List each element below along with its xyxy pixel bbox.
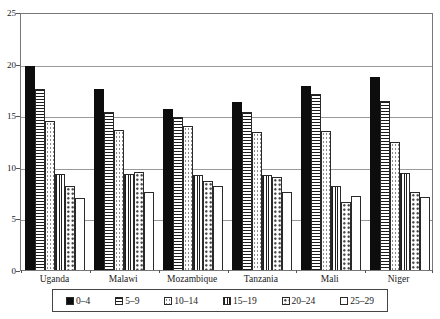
legend-label: 15–19 xyxy=(233,296,257,306)
bar-tanzania-10–14 xyxy=(252,132,262,270)
legend-item-0–4: 0–4 xyxy=(66,296,90,306)
legend-swatch-h-lines xyxy=(115,297,123,305)
bar-niger-0–4 xyxy=(370,77,380,270)
bar-mozambique-15–19 xyxy=(193,175,203,270)
y-tick-label: 20 xyxy=(0,60,16,70)
bar-niger-10–14 xyxy=(390,142,400,270)
bar-niger-15–19 xyxy=(400,173,410,270)
legend-swatch-dots-light xyxy=(164,297,172,305)
bar-uganda-25–29 xyxy=(75,198,85,270)
y-tick-mark xyxy=(16,116,20,117)
bar-mozambique-20–24 xyxy=(203,181,213,270)
y-tick-label: 15 xyxy=(0,111,16,121)
bar-niger-25–29 xyxy=(420,197,430,270)
x-tick-mark xyxy=(159,270,160,273)
bar-uganda-10–14 xyxy=(45,121,55,270)
x-tick-mark xyxy=(296,270,297,273)
plot-area xyxy=(20,13,433,271)
legend-label: 0–4 xyxy=(76,296,90,306)
bar-tanzania-15–19 xyxy=(262,175,272,270)
x-category-label-uganda: Uganda xyxy=(20,274,89,285)
y-tick-mark xyxy=(16,168,20,169)
y-tick-label: 5 xyxy=(0,214,16,224)
x-category-label-mozambique: Mozambique xyxy=(158,274,227,285)
bar-mali-0–4 xyxy=(301,86,311,270)
y-tick-label: 25 xyxy=(0,8,16,18)
x-category-label-mali: Mali xyxy=(295,274,364,285)
bar-group-niger xyxy=(365,14,434,270)
y-tick-mark xyxy=(16,271,20,272)
legend-label: 10–14 xyxy=(174,296,198,306)
bar-mozambique-0–4 xyxy=(163,109,173,270)
x-tick-mark xyxy=(365,270,366,273)
legend-label: 25–29 xyxy=(350,296,374,306)
bar-mozambique-10–14 xyxy=(183,126,193,270)
bar-group-mozambique xyxy=(159,14,228,270)
bar-niger-20–24 xyxy=(410,192,420,270)
bar-uganda-15–19 xyxy=(55,174,65,270)
x-tick-mark xyxy=(228,270,229,273)
y-tick-label: 0 xyxy=(0,266,16,276)
bar-tanzania-20–24 xyxy=(272,177,282,270)
bar-mozambique-25–29 xyxy=(213,186,223,270)
y-tick-mark xyxy=(16,65,20,66)
bar-mali-20–24 xyxy=(341,202,351,270)
bar-mali-25–29 xyxy=(351,196,361,270)
legend-item-5–9: 5–9 xyxy=(115,296,139,306)
bar-malawi-15–19 xyxy=(124,174,134,270)
bar-niger-5–9 xyxy=(380,101,390,270)
x-tick-mark xyxy=(432,270,433,273)
age-distribution-bar-chart: UgandaMalawiMozambiqueTanzaniaMaliNiger … xyxy=(0,0,440,319)
bar-mozambique-5–9 xyxy=(173,117,183,270)
legend-label: 20–24 xyxy=(292,296,316,306)
bar-group-malawi xyxy=(90,14,159,270)
y-tick-mark xyxy=(16,219,20,220)
bar-group-uganda xyxy=(21,14,90,270)
bar-uganda-0–4 xyxy=(25,66,35,270)
x-tick-mark xyxy=(21,270,22,273)
bar-tanzania-5–9 xyxy=(242,112,252,270)
legend-swatch-dots-dense xyxy=(282,297,290,305)
bar-malawi-10–14 xyxy=(114,130,124,270)
legend: 0–45–910–1415–1920–2425–29 xyxy=(52,289,388,312)
x-category-label-tanzania: Tanzania xyxy=(226,274,295,285)
bar-uganda-20–24 xyxy=(65,186,75,270)
legend-swatch-white xyxy=(340,297,348,305)
legend-item-10–14: 10–14 xyxy=(164,296,198,306)
legend-label: 5–9 xyxy=(125,296,139,306)
bar-malawi-25–29 xyxy=(144,192,154,270)
y-tick-label: 10 xyxy=(0,163,16,173)
bar-malawi-5–9 xyxy=(104,112,114,270)
y-tick-mark xyxy=(16,13,20,14)
legend-item-25–29: 25–29 xyxy=(340,296,374,306)
bar-malawi-0–4 xyxy=(94,89,104,270)
bar-uganda-5–9 xyxy=(35,89,45,270)
bar-tanzania-0–4 xyxy=(232,102,242,270)
x-tick-mark xyxy=(90,270,91,273)
bar-tanzania-25–29 xyxy=(282,192,292,270)
x-axis-category-labels: UgandaMalawiMozambiqueTanzaniaMaliNiger xyxy=(20,274,433,285)
bar-mali-15–19 xyxy=(331,186,341,270)
x-category-label-malawi: Malawi xyxy=(89,274,158,285)
legend-swatch-v-lines xyxy=(223,297,231,305)
legend-item-15–19: 15–19 xyxy=(223,296,257,306)
bar-malawi-20–24 xyxy=(134,172,144,270)
bar-mali-10–14 xyxy=(321,131,331,270)
x-category-label-niger: Niger xyxy=(364,274,433,285)
legend-swatch-solid-black xyxy=(66,297,74,305)
legend-item-20–24: 20–24 xyxy=(282,296,316,306)
bar-group-tanzania xyxy=(228,14,297,270)
bar-mali-5–9 xyxy=(311,94,321,270)
bar-group-mali xyxy=(296,14,365,270)
